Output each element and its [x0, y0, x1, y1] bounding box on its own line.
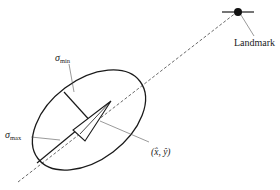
sigma-max-label: σmax [5, 129, 22, 141]
heading-line [80, 101, 111, 134]
landmark-leader [241, 15, 254, 36]
pose-leader [100, 121, 149, 142]
sigma-min-leader [69, 64, 74, 92]
landmark-dot-icon [234, 8, 242, 16]
sigma-max-leader [31, 137, 60, 140]
error-ellipse-diagram: Landmark σmin σmax (x̂, ŷ) [0, 0, 280, 190]
sigma-max-subscript: max [10, 134, 22, 141]
sigma-min-label: σmin [55, 52, 71, 64]
sigma-min-subscript: min [60, 57, 71, 64]
line-of-sight-dashed [18, 12, 237, 182]
pose-label: (x̂, ŷ) [151, 147, 171, 158]
landmark-label: Landmark [234, 37, 275, 48]
